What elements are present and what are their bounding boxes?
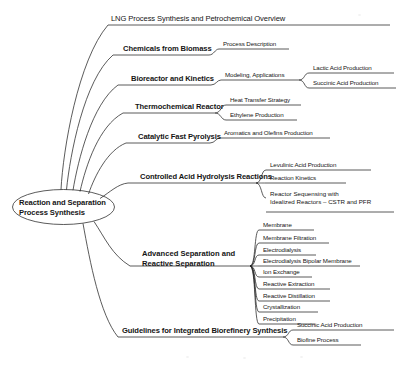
root-label-line1: Reaction and Separation [19, 198, 115, 208]
node-membrane[interactable]: Membrane [263, 222, 292, 229]
node-controlled-acid-hydrolysis-reactions[interactable]: Controlled Acid Hydrolysis Reactions [140, 173, 272, 181]
node-membrane-filtration[interactable]: Membrane Filtration [263, 235, 316, 242]
sequencing-label-line2: Idealized Reactors – CSTR and PFR [270, 198, 396, 206]
node-reactive-extraction[interactable]: Reactive Extraction [263, 281, 314, 288]
node-succinic-acid-production-bioreactor[interactable]: Succinic Acid Production [313, 80, 378, 87]
node-thermochemical-reactor[interactable]: Thermochemical Reactor [135, 103, 224, 111]
scan-artifact [243, 357, 246, 359]
root-node-label[interactable]: Reaction and Separation Process Synthesi… [19, 198, 115, 218]
scan-artifact [300, 356, 303, 358]
connector-bioreactor-to-modeling [211, 80, 299, 85]
node-aromatics-and-olefins-production[interactable]: Aromatics and Olefins Production [224, 130, 313, 137]
node-bioreactor-and-kinetics[interactable]: Bioreactor and Kinetics [131, 75, 214, 83]
node-crystallization[interactable]: Crystallization [263, 304, 300, 311]
connector-root-to-hydrolysis [100, 183, 256, 199]
node-ion-exchange[interactable]: Ion Exchange [263, 269, 300, 276]
advsep-label-line2: Reactive Separation [142, 259, 246, 269]
node-process-description[interactable]: Process Description [223, 41, 276, 48]
scan-artifact [186, 356, 189, 358]
node-reactive-distillation[interactable]: Reactive Distillation [263, 293, 315, 300]
connector-root-to-lng [61, 25, 390, 190]
node-chemicals-from-biomass[interactable]: Chemicals from Biomass [123, 45, 212, 53]
node-electrodialysis-bipolar-membrane[interactable]: Electrodialysis Bipolar Membrane [263, 258, 352, 265]
node-lng-process-synthesis[interactable]: LNG Process Synthesis and Petrochemical … [111, 15, 285, 23]
node-biofine-process[interactable]: Biofine Process [297, 337, 339, 344]
connector-chemicals-to-process-description [209, 49, 289, 55]
connector-root-to-guidelines [83, 224, 283, 338]
node-electrodialysis[interactable]: Electrodialysis [263, 247, 301, 254]
node-advanced-separation-and-reactive-separation[interactable]: Advanced Separation and Reactive Separat… [142, 249, 246, 270]
connector-pyrolysis-to-aromatics [210, 138, 330, 143]
connector-hydrolysis-to-sequencing [256, 183, 266, 198]
mind-map-canvas: Reaction and Separation Process Synthesi… [0, 0, 403, 367]
sequencing-label-line1: Reactor Sequensing with [270, 190, 396, 198]
node-modeling-applications[interactable]: Modeling, Applications [225, 72, 284, 79]
root-label-line2: Process Synthesis [19, 208, 115, 218]
node-lactic-acid-production[interactable]: Lactic Acid Production [313, 65, 372, 72]
node-catalytic-fast-pyrolysis[interactable]: Catalytic Fast Pyrolysis [138, 133, 221, 141]
node-precipitation[interactable]: Precipitation [263, 316, 296, 323]
mindmap-connectors [0, 0, 403, 367]
node-reactor-sequencing-idealized-reactors[interactable]: Reactor Sequensing with Idealized Reacto… [270, 190, 396, 207]
node-heat-transfer-strategy[interactable]: Heat Transfer Strategy [230, 97, 290, 104]
node-ethylene-production[interactable]: Ethylene Production [230, 112, 283, 119]
connector-root-to-pyrolysis [89, 143, 211, 194]
node-levulinic-acid-production[interactable]: Levulinic Acid Production [270, 162, 336, 169]
advsep-label-line1: Advanced Separation and [142, 249, 246, 259]
node-guidelines-for-integrated-biorefinery-synthesis[interactable]: Guidelines for Integrated Biorefinery Sy… [122, 327, 287, 335]
node-reaction-kinetics[interactable]: Reaction Kinetics [270, 175, 316, 182]
scan-artifact [358, 14, 361, 16]
node-succinic-acid-production-guidelines[interactable]: Succinic Acid Production [297, 322, 362, 329]
